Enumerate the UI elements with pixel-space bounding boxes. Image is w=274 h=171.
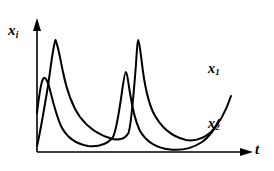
y-axis-label: xi [8, 23, 18, 38]
curve-series-x1 [37, 40, 231, 146]
series-label-x2-subscript: 2 [215, 122, 219, 132]
series-label-x2-base: x [208, 116, 215, 131]
curve-series-x2 [37, 72, 219, 150]
x-axis-label-base: t [255, 141, 259, 157]
arrow-up-icon [33, 18, 41, 31]
series-label-x1-base: x [208, 61, 215, 76]
plot-area [0, 0, 274, 171]
series-label-x1: x1 [208, 62, 220, 76]
x-axis-label: t [255, 142, 259, 157]
series-label-x1-subscript: 1 [215, 67, 219, 77]
series-label-x2: x2 [208, 117, 220, 131]
arrow-right-icon [240, 148, 253, 156]
figure-container: xi t x1 x2 [0, 0, 274, 171]
y-axis-label-base: x [8, 22, 16, 38]
